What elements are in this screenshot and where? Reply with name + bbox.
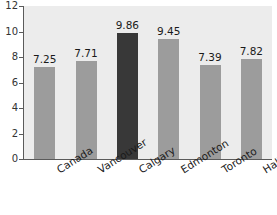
x-axis-label-edmonton: Edmonton bbox=[179, 166, 185, 175]
bar-value-label: 7.71 bbox=[70, 48, 102, 59]
y-axis-tick-label: 2 bbox=[1, 129, 18, 139]
bar[interactable] bbox=[158, 39, 179, 159]
bar-value-label: 7.25 bbox=[29, 54, 61, 65]
x-axis-label-halifax: Halifax bbox=[261, 166, 267, 175]
bar-value-label: 9.86 bbox=[111, 20, 143, 31]
y-axis-tick-label: 8 bbox=[1, 52, 18, 62]
y-axis-tick-label: 12 bbox=[1, 1, 18, 11]
y-axis-tick-mark bbox=[19, 6, 23, 7]
y-axis-tick-mark bbox=[19, 134, 23, 135]
bar-value-label: 7.39 bbox=[194, 52, 226, 63]
plot-area bbox=[24, 6, 272, 159]
x-axis-category-labels: CanadaVancouverCalgaryEdmontonTorontoHal… bbox=[0, 160, 277, 215]
bar[interactable] bbox=[34, 67, 55, 159]
bar-value-label: 7.82 bbox=[235, 46, 267, 57]
x-axis-label-vancouver: Vancouver bbox=[96, 166, 102, 175]
y-axis-tick-mark bbox=[19, 32, 23, 33]
x-axis-label-canada: Canada bbox=[55, 166, 61, 175]
y-axis-tick-mark bbox=[19, 83, 23, 84]
y-axis-tick-mark bbox=[19, 108, 23, 109]
y-axis-line bbox=[23, 6, 24, 160]
y-axis-tick-label: 10 bbox=[1, 27, 18, 37]
y-axis-tick-label: 4 bbox=[1, 103, 18, 113]
x-axis-label-toronto: Toronto bbox=[220, 166, 226, 175]
bar-value-label: 9.45 bbox=[153, 26, 185, 37]
y-axis-tick-mark bbox=[19, 57, 23, 58]
x-axis-label-calgary: Calgary bbox=[137, 166, 143, 175]
bar-chart: 024681012 7.257.719.869.457.397.82 Canad… bbox=[0, 0, 277, 215]
y-axis-tick-label: 6 bbox=[1, 78, 18, 88]
